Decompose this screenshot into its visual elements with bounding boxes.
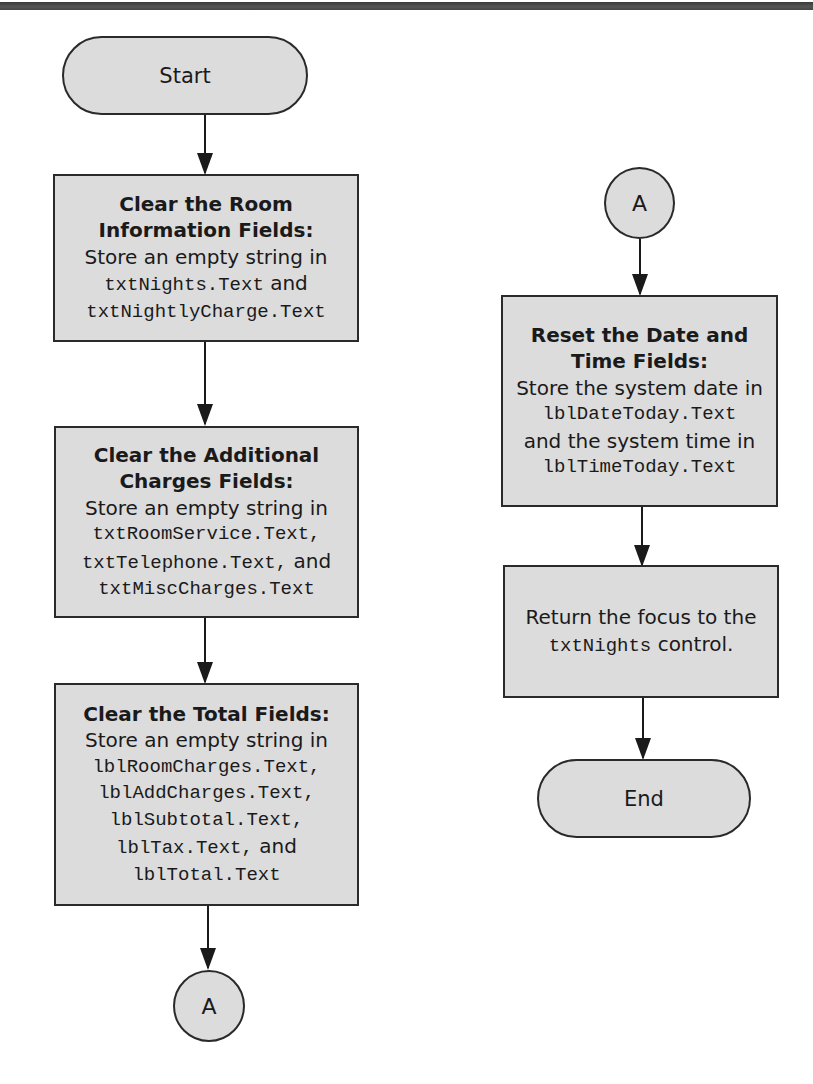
connector-a-out: A: [173, 970, 245, 1042]
step1-title-line2: Information Fields:: [99, 217, 314, 244]
process-reset-date-time: Reset the Date and Time Fields: Store th…: [501, 295, 778, 507]
arrow-step3-to-connector: [207, 906, 209, 968]
connector-a-in: A: [604, 167, 675, 239]
process-clear-room-info: Clear the Room Information Fields: Store…: [53, 174, 359, 342]
step3-code-lbltax: lblTax.Text,: [116, 837, 253, 859]
start-terminal: Start: [62, 36, 308, 115]
step1-body: Store an empty string in: [84, 244, 327, 271]
step2-code-txttelephone: txtTelephone.Text,: [82, 552, 287, 574]
step2-code-txtmisccharges: txtMiscCharges.Text: [98, 576, 315, 603]
top-rule: [0, 2, 813, 10]
step3-title: Clear the Total Fields:: [83, 701, 330, 728]
step4-body-line2: and the system time in: [524, 428, 756, 455]
step4-code-lbldatetoday: lblDateToday.Text: [543, 401, 737, 428]
process-return-focus: Return the focus to the txtNights contro…: [503, 565, 779, 698]
arrow-step2-to-step3: [204, 618, 206, 682]
arrow-connector-to-step4: [639, 239, 641, 294]
step3-code-lbladdcharges: lblAddCharges.Text,: [98, 780, 315, 807]
step4-title-line1: Reset the Date and: [531, 322, 749, 349]
arrow-step1-to-step2: [204, 342, 206, 424]
step4-title-line2: Time Fields:: [571, 348, 708, 375]
step3-code-lblroomcharges: lblRoomCharges.Text,: [92, 754, 320, 781]
step1-and: and: [264, 271, 308, 295]
step3-body: Store an empty string in: [85, 727, 328, 754]
arrow-step5-to-end: [642, 698, 644, 758]
step1-code-txtnights: txtNights.Text: [104, 274, 264, 296]
process-clear-total-fields: Clear the Total Fields: Store an empty s…: [54, 683, 359, 906]
process-clear-additional-charges: Clear the Additional Charges Fields: Sto…: [54, 426, 359, 618]
step3-code-lbltotal: lblTotal.Text: [132, 862, 280, 889]
step2-title-line2: Charges Fields:: [119, 468, 293, 495]
step1-code-txtnightlycharge: txtNightlyCharge.Text: [86, 299, 325, 326]
end-terminal: End: [537, 759, 751, 838]
arrow-start-to-step1: [204, 115, 206, 173]
step5-control-text: control.: [651, 632, 733, 656]
step2-and: and: [287, 549, 331, 573]
connector-a-in-label: A: [632, 191, 647, 216]
step5-code-txtnights: txtNights: [549, 635, 652, 657]
step5-body: Return the focus to the: [526, 604, 757, 631]
step2-body: Store an empty string in: [85, 495, 328, 522]
arrow-step4-to-step5: [641, 507, 643, 565]
step3-code-lblsubtotal: lblSubtotal.Text,: [110, 807, 304, 834]
end-label: End: [624, 787, 664, 811]
step4-body-line1: Store the system date in: [516, 375, 763, 402]
step3-and: and: [253, 834, 297, 858]
connector-a-out-label: A: [201, 994, 216, 1019]
step4-code-lbltimetoday: lblTimeToday.Text: [543, 454, 737, 481]
step2-code-txtroomservice: txtRoomService.Text,: [92, 521, 320, 548]
start-label: Start: [159, 64, 210, 88]
step1-title-line1: Clear the Room: [119, 191, 292, 218]
step2-title-line1: Clear the Additional: [94, 442, 319, 469]
